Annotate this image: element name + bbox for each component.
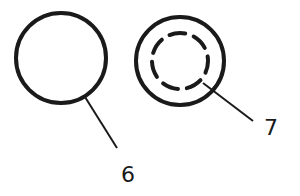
label-7: 7: [264, 115, 278, 140]
part-7: 7: [136, 17, 278, 140]
plain-circle: [16, 13, 106, 103]
leader-line-6: [85, 97, 117, 148]
part-6: 6: [16, 13, 135, 187]
label-6: 6: [121, 162, 135, 187]
outer-circle: [136, 17, 224, 105]
dashed-inner-circle: [152, 33, 208, 89]
diagram-canvas: 6 7: [0, 0, 300, 196]
leader-line-7: [203, 83, 253, 121]
